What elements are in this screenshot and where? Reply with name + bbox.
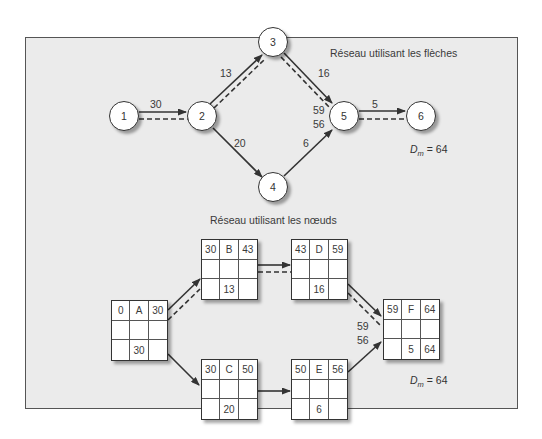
merge-label-lower: 56 [313,119,325,130]
duration-symbol: D [410,374,418,386]
merge-label-upper: 59 [313,105,325,116]
activity-name: C [220,360,238,380]
early-start: 50 [292,360,310,380]
late-finish [149,340,167,360]
late-start [202,279,220,299]
empty-cell [292,380,310,400]
activity-box-F: 59 F 64 5 64 [383,299,440,360]
early-start: 43 [292,240,310,260]
project-duration-arrow: Dm = 64 [410,143,448,158]
empty-cell [421,320,439,340]
activity-name: D [310,240,328,260]
event-node-6: 6 [406,101,436,131]
duration-value: = 64 [427,374,448,386]
early-finish: 30 [149,301,167,321]
empty-cell [239,260,257,280]
activity-box-B: 30 B 43 13 [201,239,258,300]
early-finish: 64 [421,300,439,320]
late-finish [239,399,257,419]
early-start: 30 [202,240,220,260]
event-node-label: 4 [270,181,276,193]
empty-cell [130,321,148,341]
arrow-network-title: Réseau utilisant les flèches [330,48,457,59]
empty-cell [292,260,310,280]
arc-duration-3-5: 16 [318,68,330,79]
event-node-label: 6 [418,110,424,122]
event-node-label: 5 [341,110,347,122]
project-duration-nodes: Dm = 64 [410,374,448,389]
late-finish [329,399,347,419]
event-node-label: 1 [121,110,127,122]
activity-name: F [402,300,420,320]
arc-duration-4-5: 6 [303,138,309,149]
empty-cell [220,380,238,400]
duration: 30 [130,340,148,360]
late-start [384,339,402,359]
duration: 13 [220,279,238,299]
early-finish: 43 [239,240,257,260]
event-node-4: 4 [258,172,288,202]
empty-cell [220,260,238,280]
activity-name: B [220,240,238,260]
empty-cell [202,260,220,280]
link-D-F [348,284,381,316]
late-start [112,340,130,360]
duration-value: = 64 [427,143,448,155]
activity-name: A [130,301,148,321]
duration-subscript: m [418,149,424,158]
duration-subscript: m [418,380,424,389]
late-start [202,399,220,419]
event-node-label: 2 [199,110,205,122]
arc-duration-1-2: 30 [150,99,162,110]
empty-cell [310,380,328,400]
early-start: 30 [202,360,220,380]
activity-box-E: 50 E 56 6 [291,359,348,420]
empty-cell [149,321,167,341]
empty-cell [112,321,130,341]
link-A-B [168,279,200,310]
duration: 20 [220,399,238,419]
merge-label-upper-nodes: 59 [357,321,369,332]
late-finish [329,279,347,299]
duration: 6 [310,399,328,419]
late-start [292,399,310,419]
duration-symbol: D [410,143,418,155]
activity-box-D: 43 D 59 16 [291,239,348,300]
early-start: 0 [112,301,130,321]
event-node-5: 5 [329,101,359,131]
activity-name: E [310,360,328,380]
pert-diagram: Réseau utilisant les flèches 1 2 3 4 5 6… [0,0,542,439]
activity-box-A: 0 A 30 30 [111,300,168,361]
empty-cell [202,380,220,400]
early-finish: 59 [329,240,347,260]
arc-duration-2-4: 20 [234,138,246,149]
arc-duration-2-3: 13 [220,68,232,79]
empty-cell [310,260,328,280]
early-finish: 50 [239,360,257,380]
event-node-label: 3 [270,36,276,48]
duration: 5 [402,339,420,359]
link-A-C [168,354,199,385]
late-finish: 64 [421,339,439,359]
merge-label-lower-nodes: 56 [357,335,369,346]
empty-cell [329,380,347,400]
late-start [292,279,310,299]
empty-cell [239,380,257,400]
link-E-F [348,342,381,372]
early-start: 59 [384,300,402,320]
arc-duration-5-6: 5 [372,99,378,110]
late-finish [239,279,257,299]
arc-2-3 [210,55,262,104]
event-node-1: 1 [109,101,139,131]
event-node-2: 2 [187,101,217,131]
event-node-3: 3 [258,27,288,57]
early-finish: 56 [329,360,347,380]
activity-box-C: 30 C 50 20 [201,359,258,420]
empty-cell [329,260,347,280]
empty-cell [402,320,420,340]
critical-3-5 [281,57,330,108]
node-network-title: Réseau utilisant les nœuds [210,215,337,226]
arc-2-4 [213,128,262,177]
empty-cell [384,320,402,340]
duration: 16 [310,279,328,299]
